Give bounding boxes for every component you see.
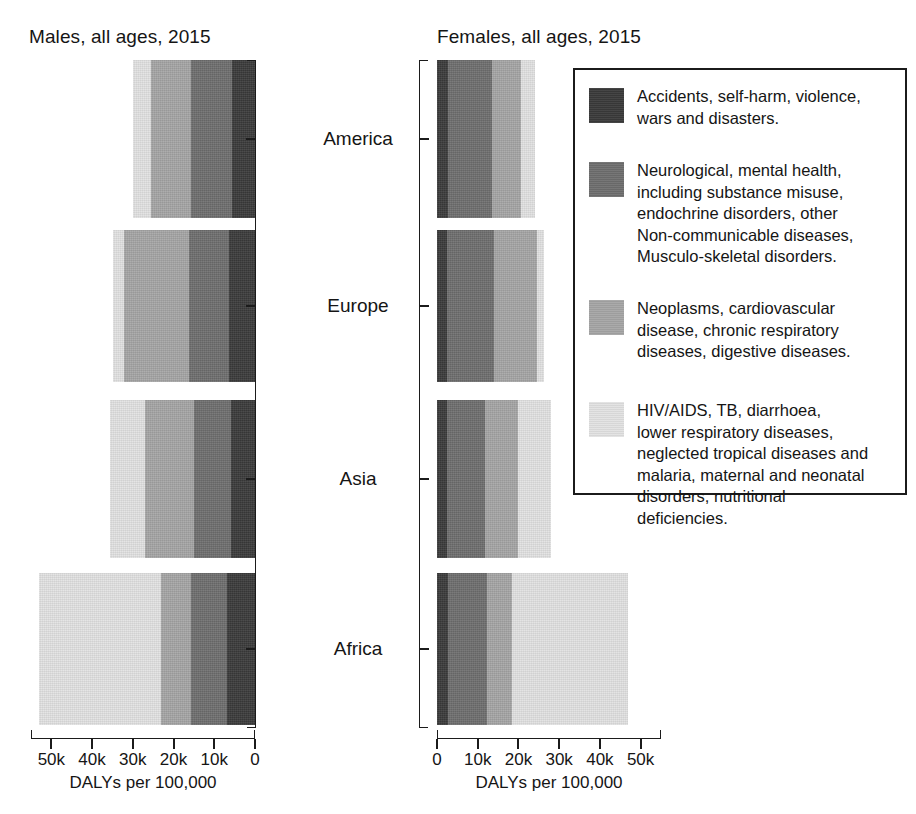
bar-segment xyxy=(189,230,230,382)
bar-segment xyxy=(521,60,535,218)
value-tick xyxy=(91,739,93,749)
bar-segment xyxy=(161,573,191,725)
legend-swatch-neurological xyxy=(589,162,624,197)
plot-area-males xyxy=(0,60,270,728)
bar-segment xyxy=(110,400,145,558)
axis-cap-right xyxy=(660,730,661,739)
bar-segment xyxy=(447,230,495,382)
bar-segment xyxy=(485,400,518,558)
legend-label-accidents: Accidents, self-harm, violence, wars and… xyxy=(637,86,861,129)
category-label-europe: Europe xyxy=(288,295,428,317)
bar-segment xyxy=(145,400,195,558)
value-tick-label: 10k xyxy=(201,750,228,770)
bar-segment xyxy=(437,573,448,725)
axis-cap-bottom xyxy=(419,727,428,728)
axis-caption-females: DALYs per 100,000 xyxy=(475,773,622,793)
chart-figure: Males, all ages, 2015 Females, all ages,… xyxy=(0,0,916,814)
bar-segment xyxy=(487,573,513,725)
value-tick-label: 50k xyxy=(627,750,654,770)
value-tick xyxy=(558,739,560,749)
axis-cap-bottom xyxy=(247,727,256,728)
value-tick xyxy=(173,739,175,749)
bar-segment xyxy=(537,230,544,382)
value-tick xyxy=(436,739,438,749)
value-tick-label: 40k xyxy=(586,750,613,770)
axis-caption-males: DALYs per 100,000 xyxy=(69,773,216,793)
legend-swatch-accidents xyxy=(589,88,624,123)
legend-label-infectious: HIV/AIDS, TB, diarrhoea, lower respirato… xyxy=(637,400,868,529)
bar-segment xyxy=(494,230,537,382)
value-tick-label: 20k xyxy=(160,750,187,770)
value-tick-label: 40k xyxy=(78,750,105,770)
bar-segment xyxy=(133,60,151,218)
category-tick xyxy=(246,305,255,307)
legend-item-accidents: Accidents, self-harm, violence, wars and… xyxy=(589,86,895,129)
axis-cap-top xyxy=(247,60,256,61)
category-tick xyxy=(246,478,255,480)
bar-segment xyxy=(151,60,192,218)
panel-title-males: Males, all ages, 2015 xyxy=(29,26,211,48)
value-tick xyxy=(477,739,479,749)
bar-segment xyxy=(191,60,232,218)
value-tick xyxy=(640,739,642,749)
category-tick xyxy=(246,138,255,140)
bar-segment xyxy=(39,573,161,725)
value-tick xyxy=(50,739,52,749)
value-tick xyxy=(517,739,519,749)
axis-cap-left xyxy=(31,730,32,739)
axis-cap-left xyxy=(437,730,438,739)
legend-label-neurological: Neurological, mental health, including s… xyxy=(637,160,853,268)
legend-item-neurological: Neurological, mental health, including s… xyxy=(589,160,895,268)
bar-segment xyxy=(437,60,448,218)
bar-segment xyxy=(448,60,492,218)
bar-segment xyxy=(124,230,189,382)
value-tick-label: 30k xyxy=(545,750,572,770)
value-axis-females xyxy=(437,738,661,739)
axis-cap-right xyxy=(254,730,255,739)
value-tick-label: 10k xyxy=(464,750,491,770)
bar-segment xyxy=(448,573,487,725)
legend-swatch-infectious xyxy=(589,402,624,437)
value-tick xyxy=(132,739,134,749)
category-label-africa: Africa xyxy=(288,638,428,660)
category-tick xyxy=(246,648,255,650)
category-label-america: America xyxy=(288,128,428,150)
panel-title-females: Females, all ages, 2015 xyxy=(437,26,641,48)
value-tick xyxy=(213,739,215,749)
axis-cap-top xyxy=(419,60,428,61)
bar-segment xyxy=(518,400,551,558)
bar-segment xyxy=(191,573,228,725)
legend-item-neoplasms: Neoplasms, cardiovascular disease, chron… xyxy=(589,298,895,363)
bar-segment xyxy=(194,400,231,558)
value-tick-label: 20k xyxy=(505,750,532,770)
value-tick xyxy=(254,739,256,749)
bar-segment xyxy=(437,230,447,382)
category-axis-females xyxy=(419,60,420,728)
value-tick-label: 50k xyxy=(38,750,65,770)
value-axis-males xyxy=(31,738,255,739)
value-tick xyxy=(599,739,601,749)
value-tick-label: 0 xyxy=(250,750,259,770)
category-axis-males xyxy=(255,60,256,728)
category-label-asia: Asia xyxy=(288,468,428,490)
bar-segment xyxy=(492,60,522,218)
legend-swatch-neoplasms xyxy=(589,300,624,335)
bar-segment xyxy=(113,230,124,382)
bar-segment xyxy=(512,573,627,725)
bar-segment xyxy=(437,400,447,558)
value-tick-label: 0 xyxy=(432,750,441,770)
value-tick-label: 30k xyxy=(119,750,146,770)
legend-item-infectious: HIV/AIDS, TB, diarrhoea, lower respirato… xyxy=(589,400,895,529)
legend-label-neoplasms: Neoplasms, cardiovascular disease, chron… xyxy=(637,298,851,363)
legend-box: Accidents, self-harm, violence, wars and… xyxy=(573,68,907,495)
bar-segment xyxy=(447,400,486,558)
